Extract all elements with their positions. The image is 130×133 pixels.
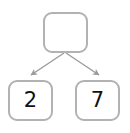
edge-root-to-left: [31, 53, 64, 75]
tree-diagram: 2 7: [0, 0, 130, 133]
tree-node-left-child-label: 2: [24, 90, 37, 111]
tree-node-left-child[interactable]: 2: [8, 80, 53, 121]
tree-node-root[interactable]: [43, 12, 88, 53]
tree-node-right-child-label: 7: [91, 90, 104, 111]
edge-root-to-right: [66, 53, 99, 75]
tree-node-right-child[interactable]: 7: [75, 80, 120, 121]
